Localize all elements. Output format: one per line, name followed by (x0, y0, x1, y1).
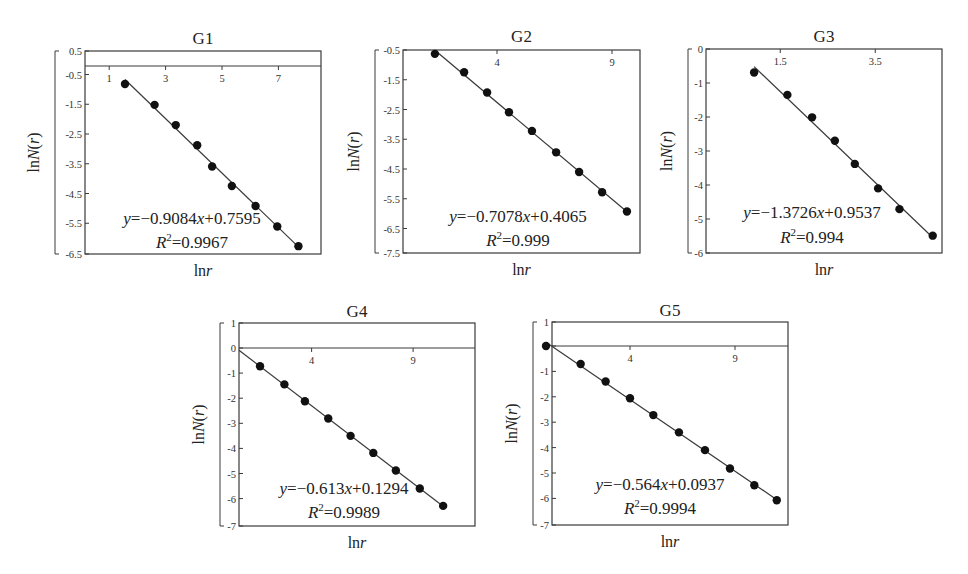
y-tick-label: -5.5 (65, 218, 82, 229)
data-point (121, 80, 129, 88)
y-tick-label: -7.5 (383, 248, 400, 259)
data-point (783, 91, 791, 99)
r-squared-label: R2=0.9994 (623, 497, 697, 518)
x-axis-label: lnr (815, 261, 834, 278)
y-tick-label: -6.5 (65, 249, 82, 260)
regression-equation: y=−0.613x+0.1294 (278, 479, 409, 498)
x-axis-label: lnr (661, 533, 680, 550)
y-axis-label: lnN(r) (345, 131, 363, 171)
regression-equation: y=−0.9084x+0.7595 (121, 209, 260, 228)
x-tick-label: 5 (219, 73, 224, 84)
y-tick-label: -4 (694, 180, 703, 191)
y-axis-label: lnN(r) (658, 131, 676, 171)
data-point (576, 360, 584, 368)
data-point (675, 428, 683, 436)
data-point (150, 101, 158, 109)
y-tick-label: -5 (227, 469, 236, 480)
y-tick-label: -6 (694, 248, 703, 259)
data-point (831, 137, 839, 145)
panel-g5: G510-1-2-3-4-5-6-749y=−0.564x+0.0937R2=0… (503, 301, 788, 550)
data-point (228, 182, 236, 190)
y-tick-label: -0.5 (65, 70, 82, 81)
y-axis-label: lnN(r) (190, 404, 208, 444)
panel-g2: G2-0.5-1.5-2.5-3.5-4.5-5.5-6.5-7.549y=−0… (345, 27, 640, 278)
data-point (273, 222, 281, 230)
y-tick-label: -1 (694, 78, 703, 89)
x-axis-label: lnr (348, 534, 367, 551)
y-tick-label: -3 (227, 418, 236, 429)
data-point (193, 141, 201, 149)
panel-title: G5 (660, 301, 681, 320)
y-tick-label: -3.5 (383, 134, 400, 145)
data-point (439, 502, 447, 510)
data-point (369, 449, 377, 457)
y-axis-bracket (533, 322, 537, 525)
y-axis-label: lnN(r) (503, 403, 521, 443)
panel-title: G2 (511, 27, 532, 46)
x-tick-label: 4 (494, 57, 500, 68)
data-point (808, 113, 816, 121)
r-squared-label: R2=0.999 (485, 229, 550, 250)
data-point (528, 127, 536, 135)
x-tick-label: 4 (309, 355, 315, 366)
panel-title: G1 (193, 29, 214, 48)
y-tick-label: -3.5 (65, 159, 82, 170)
x-tick-label: 1 (107, 73, 112, 84)
data-point (726, 464, 734, 472)
data-point (598, 188, 606, 196)
x-tick-label: 7 (276, 73, 281, 84)
y-tick-label: -6 (227, 494, 236, 505)
data-point (895, 205, 903, 213)
y-tick-label: -4 (540, 443, 549, 454)
plot-frame (706, 49, 942, 253)
y-tick-label: -2.5 (383, 105, 400, 116)
data-point (750, 481, 758, 489)
data-point (172, 121, 180, 129)
r-squared-label: R2=0.9967 (155, 231, 229, 252)
panel-title: G3 (814, 27, 835, 46)
y-tick-label: -3 (540, 417, 549, 428)
figure-canvas: G10.5-0.5-1.5-2.5-3.5-4.5-5.5-6.51357y=−… (0, 0, 968, 574)
x-axis-label: lnr (512, 261, 531, 278)
data-point (874, 184, 882, 192)
data-point (750, 68, 758, 76)
data-point (460, 68, 468, 76)
y-axis-bracket (220, 323, 224, 526)
y-tick-label: -4.5 (383, 164, 400, 175)
y-tick-label: -7 (540, 520, 549, 531)
data-point (626, 394, 634, 402)
data-point (256, 362, 264, 370)
x-axis-label: lnr (194, 262, 213, 279)
data-point (601, 377, 609, 385)
y-tick-label: -3 (694, 146, 703, 157)
x-tick-label: 9 (410, 355, 415, 366)
data-point (346, 432, 354, 440)
y-tick-label: -1.5 (65, 99, 82, 110)
x-tick-label: 3.5 (869, 56, 882, 67)
plot-frame (552, 322, 788, 525)
x-tick-label: 3 (163, 73, 168, 84)
y-tick-label: -6 (540, 493, 549, 504)
x-tick-label: 1.5 (774, 56, 787, 67)
y-axis-bracket (55, 51, 59, 254)
data-point (929, 231, 937, 239)
y-tick-label: -0.5 (383, 45, 400, 56)
y-tick-label: 0 (698, 44, 703, 55)
y-tick-label: -5 (540, 468, 549, 479)
y-tick-label: -2 (694, 112, 703, 123)
data-point (294, 242, 302, 250)
y-tick-label: 1 (231, 318, 236, 329)
y-tick-label: 0.5 (69, 46, 82, 57)
data-point (552, 148, 560, 156)
y-tick-label: -1 (227, 368, 236, 379)
data-point (280, 380, 288, 388)
data-point (483, 88, 491, 96)
x-tick-label: 9 (732, 353, 737, 364)
data-point (575, 168, 583, 176)
y-tick-label: -2 (227, 393, 236, 404)
regression-equation: y=−0.564x+0.0937 (594, 475, 725, 494)
data-point (416, 484, 424, 492)
data-point (851, 160, 859, 168)
y-tick-label: -5 (694, 214, 703, 225)
data-point (773, 496, 781, 504)
